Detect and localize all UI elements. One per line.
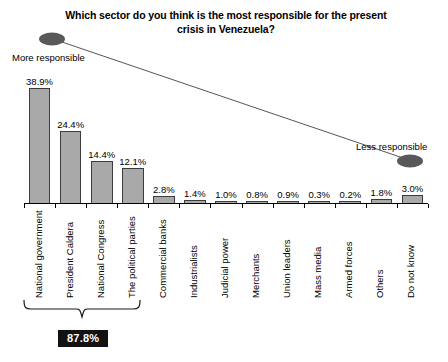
category-label: Merchants <box>251 254 261 298</box>
bar-group: 24.4% <box>60 74 82 204</box>
more-responsible-label: More responsible <box>12 52 85 63</box>
bar <box>122 168 144 204</box>
axis-tick <box>148 204 149 208</box>
bar <box>91 161 113 204</box>
bar-value-label: 24.4% <box>57 119 84 130</box>
category-label: Union leaders <box>282 239 292 298</box>
axis-tick <box>55 204 56 208</box>
category-label: Judicial power <box>220 238 230 298</box>
category-label: Mass media <box>313 247 323 298</box>
axis-tick <box>117 204 118 208</box>
bar-value-label: 0.8% <box>246 189 268 200</box>
category-axis-labels: National governmentPresident CalderaNati… <box>24 206 428 298</box>
bar-value-label: 38.9% <box>26 76 53 87</box>
category-label: Commercial banks <box>158 219 168 298</box>
bar-group: 1.4% <box>184 74 206 204</box>
axis-tick <box>397 204 398 208</box>
bar-value-label: 2.8% <box>153 184 175 195</box>
category-label: Do not know <box>406 245 416 298</box>
bar-value-label: 1.8% <box>371 187 393 198</box>
bar-value-label: 0.3% <box>308 189 330 200</box>
category-label: President Caldera <box>65 222 75 298</box>
bar-group: 1.0% <box>215 74 237 204</box>
axis-tick <box>304 204 305 208</box>
bar-value-label: 0.9% <box>277 189 299 200</box>
category-label: National government <box>34 210 44 298</box>
bar-group: 0.9% <box>277 74 299 204</box>
bar-value-label: 12.1% <box>119 156 146 167</box>
axis-tick <box>242 204 243 208</box>
bar-value-label: 0.2% <box>339 189 361 200</box>
bar-group: 2.8% <box>153 74 175 204</box>
bar-value-label: 3.0% <box>402 183 424 194</box>
bar-group: 3.0% <box>402 74 424 204</box>
chart-title: Which sector do you think is the most re… <box>52 9 400 36</box>
axis-tick <box>273 204 274 208</box>
bar-group: 12.1% <box>122 74 144 204</box>
axis-tick <box>366 204 367 208</box>
bar-value-label: 1.4% <box>184 188 206 199</box>
bar-group: 14.4% <box>91 74 113 204</box>
axis-tick <box>24 204 25 208</box>
axis-tick <box>428 204 429 208</box>
bar-value-label: 14.4% <box>88 149 115 160</box>
x-axis-line <box>24 203 428 204</box>
category-label: The political parties <box>127 216 137 298</box>
bar-group: 0.2% <box>339 74 361 204</box>
axis-tick <box>179 204 180 208</box>
bar-group: 0.3% <box>308 74 330 204</box>
group-total-badge: 87.8% <box>58 330 108 347</box>
bar-group: 1.8% <box>371 74 393 204</box>
axis-tick <box>210 204 211 208</box>
bar-chart: Which sector do you think is the most re… <box>0 0 448 362</box>
bar-group: 38.9% <box>29 74 51 204</box>
bar-group: 0.8% <box>246 74 268 204</box>
axis-tick <box>335 204 336 208</box>
bar <box>60 131 82 204</box>
bar-value-label: 1.0% <box>215 189 237 200</box>
axis-tick <box>86 204 87 208</box>
category-label: National Congress <box>96 220 106 298</box>
category-label: Others <box>375 269 385 298</box>
category-label: Armed forces <box>344 242 354 299</box>
category-label: Industrialists <box>189 245 199 298</box>
plot-area: 38.9%24.4%14.4%12.1%2.8%1.4%1.0%0.8%0.9%… <box>24 74 428 204</box>
bar <box>29 88 51 204</box>
group-brace <box>20 298 144 320</box>
